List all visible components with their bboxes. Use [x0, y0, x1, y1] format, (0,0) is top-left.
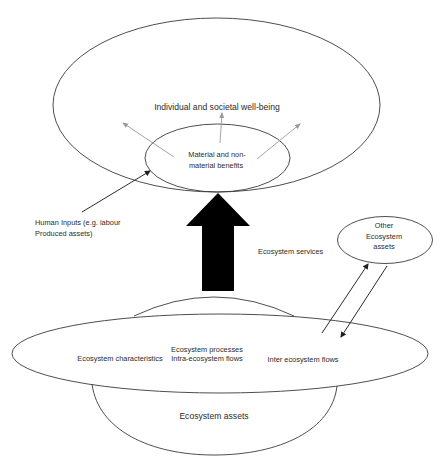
ecosystem-services-block-arrow-icon	[186, 193, 250, 291]
human-inputs-label-line2: Produced assets)	[35, 229, 93, 238]
other-assets-label-line1: Other	[375, 221, 394, 230]
inter-flow-to-other-arrow-icon	[322, 264, 368, 333]
gray-arrow-left-icon	[123, 123, 174, 157]
benefits-label-line1: Material and non-	[188, 150, 246, 159]
human-inputs-label-line1: Human Inputs (e.g. labour	[35, 218, 121, 227]
other-to-inter-flow-arrow-icon	[341, 266, 387, 337]
ecosystem-processes-label-line2: Intra-ecosystem flows	[171, 354, 243, 363]
other-assets-label-line3: assets	[373, 242, 395, 251]
wellbeing-label: Individual and societal well-being	[154, 102, 280, 112]
gray-arrow-up-icon	[220, 113, 222, 143]
ecosystem-assets-label: Ecosystem assets	[179, 411, 248, 421]
ecosystem-services-label: Ecosystem services	[258, 247, 324, 256]
ecosystem-accounting-diagram: Individual and societal well-being Mater…	[0, 0, 448, 469]
human-inputs-arrow-icon	[82, 171, 150, 212]
inter-ecosystem-flows-label: Inter ecosystem flows	[267, 355, 338, 364]
ecosystem-cap-arc	[134, 297, 294, 316]
benefits-label-line2: material benefits	[189, 161, 244, 170]
ecosystem-processes-label-line1: Ecosystem processes	[171, 345, 243, 354]
other-assets-label-line2: Ecosystem	[366, 232, 402, 241]
gray-arrow-right-icon	[257, 124, 300, 159]
ecosystem-characteristics-label: Ecosystem characteristics	[77, 354, 163, 363]
